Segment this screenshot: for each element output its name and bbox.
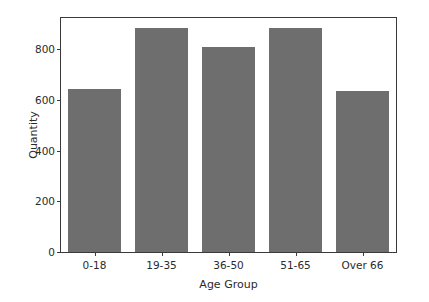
x-tick-label: 51-65 — [280, 260, 311, 271]
plot-area: 02004006008000-1819-3536-5051-65Over 66 — [60, 17, 397, 253]
x-tick-label: Over 66 — [342, 260, 384, 271]
y-tick-mark — [57, 252, 61, 253]
bar — [336, 91, 390, 252]
y-axis-title: Quantity — [28, 111, 39, 159]
y-tick-mark — [57, 100, 61, 101]
y-tick-mark — [57, 201, 61, 202]
y-tick-label: 800 — [35, 44, 55, 55]
y-tick-mark — [57, 49, 61, 50]
x-axis-title: Age Group — [60, 279, 397, 290]
x-tick-mark — [363, 252, 364, 256]
x-tick-mark — [95, 252, 96, 256]
y-tick-label: 0 — [48, 247, 55, 258]
bar — [68, 89, 122, 252]
x-tick-mark — [229, 252, 230, 256]
x-tick-label: 19-35 — [146, 260, 177, 271]
x-tick-mark — [162, 252, 163, 256]
y-tick-label: 200 — [35, 196, 55, 207]
bar — [269, 28, 323, 252]
x-tick-label: 36-50 — [213, 260, 244, 271]
y-tick-label: 600 — [35, 95, 55, 106]
x-tick-mark — [296, 252, 297, 256]
bars-layer — [61, 18, 396, 252]
bar-chart-figure: 02004006008000-1819-3536-5051-65Over 66 … — [0, 0, 429, 302]
x-tick-label: 0-18 — [83, 260, 107, 271]
bar — [202, 47, 256, 252]
y-tick-mark — [57, 151, 61, 152]
bar — [135, 28, 189, 252]
